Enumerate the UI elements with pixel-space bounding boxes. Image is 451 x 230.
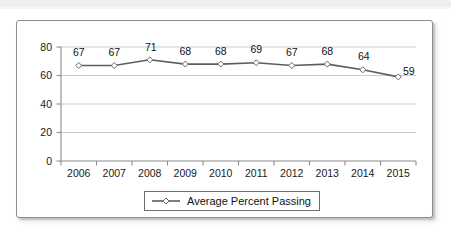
- marker-2010: [218, 61, 224, 67]
- marker-2015: [395, 74, 401, 80]
- line-chart-svg: 80 60 40 20 0 2006 20: [17, 21, 434, 219]
- x-tick-label-2008: 2008: [138, 167, 162, 179]
- series-line-average-percent-passing: [79, 60, 399, 77]
- x-tick-label-2006: 2006: [67, 167, 91, 179]
- y-axis: 80 60 40 20 0: [40, 41, 61, 167]
- data-label-2015: 59: [403, 65, 415, 77]
- x-tick-label-2013: 2013: [316, 167, 340, 179]
- x-tick-label-2014: 2014: [351, 167, 375, 179]
- x-tick-label-2007: 2007: [103, 167, 127, 179]
- x-tick-label-2011: 2011: [245, 167, 268, 179]
- x-tick-label-2009: 2009: [174, 167, 198, 179]
- y-tick-label-80: 80: [40, 41, 52, 53]
- data-label-2014: 64: [358, 50, 370, 62]
- chart-plot-area: 80 60 40 20 0 2006 20: [17, 21, 434, 219]
- y-tick-label-20: 20: [40, 126, 52, 138]
- marker-2007: [111, 63, 117, 69]
- marker-2008: [147, 57, 153, 63]
- y-tick-label-40: 40: [40, 98, 52, 110]
- data-label-2010: 68: [215, 45, 227, 57]
- data-label-2011: 69: [250, 43, 262, 55]
- legend-label-average-percent-passing: Average Percent Passing: [187, 195, 311, 207]
- marker-2012: [289, 63, 295, 69]
- marker-2013: [324, 61, 330, 67]
- marker-2009: [182, 61, 188, 67]
- scan-band: [0, 0, 451, 9]
- data-label-2008: 71: [145, 41, 157, 53]
- marker-2011: [253, 60, 259, 66]
- chart-card: 80 60 40 20 0 2006 20: [16, 20, 433, 218]
- chart-legend[interactable]: Average Percent Passing: [145, 192, 320, 211]
- x-tick-label-2015: 2015: [387, 167, 411, 179]
- data-label-2007: 67: [108, 46, 120, 58]
- y-tick-label-60: 60: [40, 69, 52, 81]
- marker-2006: [76, 63, 82, 69]
- x-axis: 2006 2007 2008 2009 2010 2011 2012 2013 …: [61, 161, 416, 179]
- data-label-2009: 68: [179, 45, 191, 57]
- data-label-2012: 67: [286, 46, 298, 58]
- marker-2014: [360, 67, 366, 73]
- y-tick-label-0: 0: [46, 155, 52, 167]
- x-tick-label-2010: 2010: [209, 167, 233, 179]
- x-tick-label-2012: 2012: [280, 167, 304, 179]
- data-label-2006: 67: [73, 46, 85, 58]
- data-label-2013: 68: [321, 45, 333, 57]
